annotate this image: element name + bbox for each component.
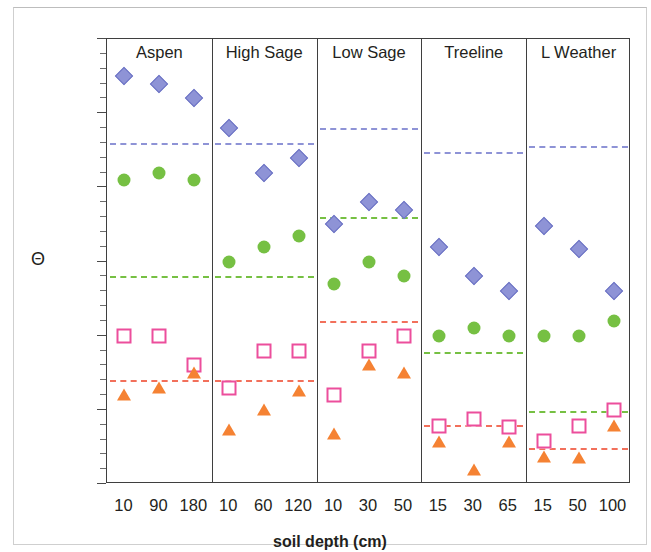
series-square-point	[501, 419, 516, 434]
panel-title-treeline: Treeline	[421, 43, 526, 62]
series-triangle-point	[117, 388, 131, 400]
x-tick-label: 10	[324, 496, 342, 515]
series-circle-point	[328, 277, 341, 290]
series-triangle-point	[257, 403, 271, 415]
reference-line-diamond	[424, 152, 523, 154]
series-triangle-point	[292, 385, 306, 397]
x-tick-label: 60	[254, 496, 272, 515]
reference-line-circle	[424, 352, 523, 354]
series-triangle-point	[467, 463, 481, 475]
series-diamond-point	[115, 67, 133, 85]
series-square-point	[222, 380, 237, 395]
series-square-point	[536, 433, 551, 448]
x-tick-label: 120	[284, 496, 312, 515]
series-circle-point	[363, 255, 376, 268]
y-tick-major	[97, 186, 106, 187]
series-diamond-point	[150, 74, 168, 92]
series-diamond-point	[569, 240, 587, 258]
reference-line-diamond	[320, 128, 419, 130]
series-diamond-point	[220, 119, 238, 137]
reference-line-circle	[110, 276, 209, 278]
figure-frame: Θ 0.60.50.40.30.20.10 AspenHigh SageLow …	[13, 7, 647, 545]
series-square-point	[571, 419, 586, 434]
series-square-point	[431, 419, 446, 434]
series-circle-point	[467, 322, 480, 335]
series-triangle-point	[187, 366, 201, 378]
series-circle-point	[537, 329, 550, 342]
reference-line-diamond	[215, 143, 314, 145]
series-triangle-point	[432, 435, 446, 447]
series-diamond-point	[290, 148, 308, 166]
series-circle-point	[397, 270, 410, 283]
x-tick-label: 10	[219, 496, 237, 515]
panel-divider	[317, 39, 318, 482]
y-axis-title: Θ	[23, 249, 53, 270]
series-triangle-point	[327, 427, 341, 439]
series-circle-point	[188, 173, 201, 186]
x-tick-label: 50	[394, 496, 412, 515]
y-tick-major	[97, 261, 106, 262]
y-tick-major	[97, 38, 106, 39]
y-tick-major	[97, 112, 106, 113]
panel-divider	[212, 39, 213, 482]
series-square-point	[362, 343, 377, 358]
series-diamond-point	[255, 163, 273, 181]
series-circle-point	[293, 229, 306, 242]
series-square-point	[257, 343, 272, 358]
x-tick-label: 30	[359, 496, 377, 515]
plot-area: AspenHigh SageLow SageTreelineL Weather	[106, 38, 630, 483]
panel-title-high-sage: High Sage	[212, 43, 317, 62]
series-circle-point	[223, 255, 236, 268]
series-diamond-point	[500, 282, 518, 300]
series-square-point	[152, 328, 167, 343]
series-circle-point	[432, 329, 445, 342]
series-triangle-point	[537, 450, 551, 462]
series-square-point	[606, 402, 621, 417]
panel-title-l-weather: L Weather	[526, 43, 631, 62]
panel-title-low-sage: Low Sage	[317, 43, 422, 62]
series-square-point	[327, 388, 342, 403]
series-circle-point	[502, 329, 515, 342]
series-triangle-point	[152, 381, 166, 393]
panel-divider	[526, 39, 527, 482]
x-tick-label: 180	[180, 496, 208, 515]
x-tick-label: 90	[149, 496, 167, 515]
series-circle-point	[258, 240, 271, 253]
x-tick-label: 30	[464, 496, 482, 515]
series-square-point	[466, 411, 481, 426]
x-tick-label: 10	[114, 496, 132, 515]
series-diamond-point	[430, 237, 448, 255]
series-diamond-point	[604, 282, 622, 300]
x-tick-label: 15	[533, 496, 551, 515]
x-tick-label: 15	[429, 496, 447, 515]
y-tick-major	[97, 409, 106, 410]
series-diamond-point	[465, 267, 483, 285]
series-triangle-point	[572, 451, 586, 463]
series-diamond-point	[360, 193, 378, 211]
x-axis-title: soil depth (cm)	[14, 533, 646, 551]
x-tick-label: 100	[599, 496, 627, 515]
series-circle-point	[572, 329, 585, 342]
reference-line-circle	[215, 276, 314, 278]
panel-title-aspen: Aspen	[107, 43, 212, 62]
x-tick-label: 50	[568, 496, 586, 515]
y-tick-major	[97, 335, 106, 336]
reference-line-diamond	[110, 143, 209, 145]
series-triangle-point	[607, 420, 621, 432]
series-triangle-point	[397, 366, 411, 378]
series-circle-point	[153, 166, 166, 179]
x-tick-label: 65	[499, 496, 517, 515]
series-triangle-point	[222, 423, 236, 435]
reference-line-triangle	[320, 321, 419, 323]
series-square-point	[396, 328, 411, 343]
series-diamond-point	[185, 89, 203, 107]
series-circle-point	[607, 314, 620, 327]
series-square-point	[292, 343, 307, 358]
reference-line-diamond	[529, 146, 628, 148]
series-diamond-point	[395, 200, 413, 218]
y-tick-major	[97, 483, 106, 484]
series-triangle-point	[502, 436, 516, 448]
series-triangle-point	[362, 359, 376, 371]
series-square-point	[117, 328, 132, 343]
series-circle-point	[118, 173, 131, 186]
